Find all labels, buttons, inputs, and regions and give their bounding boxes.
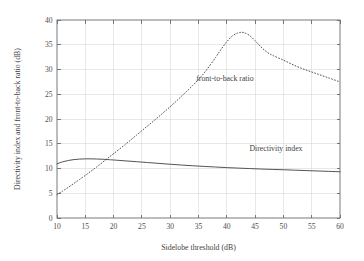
x-tick-label: 50 <box>280 222 288 231</box>
x-tick-label: 20 <box>110 222 118 231</box>
x-tick-label: 45 <box>251 222 259 231</box>
y-tick-label: 15 <box>45 139 53 148</box>
x-tick-label: 40 <box>223 222 231 231</box>
series-annotation-directivity-index: Directivity index <box>249 144 302 153</box>
x-tick-label: 55 <box>308 222 316 231</box>
x-tick-label: 60 <box>336 222 344 231</box>
chart-canvas: 10152025303540455055600510152025303540 S… <box>0 0 364 261</box>
y-tick-label: 40 <box>45 16 53 25</box>
y-tick-label: 30 <box>45 65 53 74</box>
x-tick-label: 15 <box>82 222 90 231</box>
series-annotation-front-to-back-ratio: front-to-back ratio <box>196 74 253 83</box>
gridlines <box>57 20 340 218</box>
y-tick-label: 5 <box>49 189 53 198</box>
y-tick-label: 25 <box>45 90 53 99</box>
x-tick-label: 25 <box>138 222 146 231</box>
x-axis-title: Sidelobe threshold (dB) <box>161 243 236 252</box>
y-tick-label: 20 <box>45 115 53 124</box>
x-tick-label: 10 <box>53 222 61 231</box>
y-axis-title: Directivity index and front-to-back rati… <box>13 48 22 190</box>
chart-figure: 10152025303540455055600510152025303540 S… <box>0 0 364 261</box>
y-tick-label: 35 <box>45 40 53 49</box>
y-tick-label: 10 <box>45 164 53 173</box>
tick-labels: 10152025303540455055600510152025303540 <box>45 16 344 231</box>
x-tick-label: 30 <box>166 222 174 231</box>
x-tick-label: 35 <box>195 222 203 231</box>
y-tick-label: 0 <box>49 214 53 223</box>
